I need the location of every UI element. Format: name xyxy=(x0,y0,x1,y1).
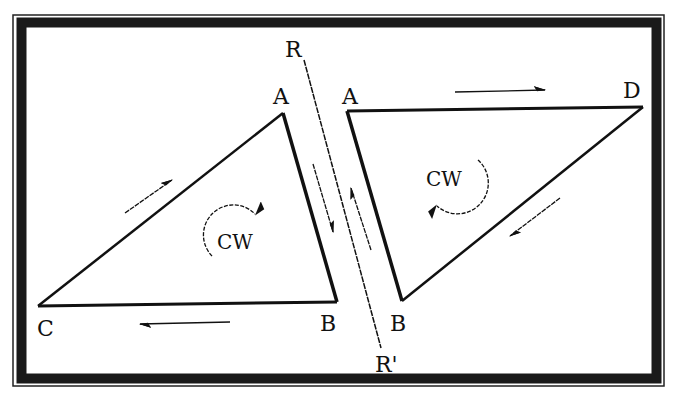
rotation-label-left: CW xyxy=(217,230,253,254)
label-c: C xyxy=(37,316,54,341)
arrow-cb-left-icon xyxy=(140,322,230,324)
label-r: R xyxy=(285,37,303,62)
label-right-a: A xyxy=(341,84,359,109)
arrow-fault-right-up-icon xyxy=(351,188,371,250)
right-triangle xyxy=(347,107,643,301)
arrow-ad-right-icon xyxy=(455,90,545,92)
label-d: D xyxy=(623,78,641,103)
arrow-db-down-icon xyxy=(510,198,560,236)
label-r-prime: R' xyxy=(375,352,398,377)
arrow-ca-up-icon xyxy=(125,180,172,213)
rotation-label-right: CW xyxy=(426,167,462,191)
label-left-a: A xyxy=(272,84,290,109)
left-triangle xyxy=(38,113,337,306)
arrow-fault-left-down-icon xyxy=(313,164,333,232)
label-left-b: B xyxy=(320,311,336,336)
diagram-canvas: R R' A B C CW A D B CW xyxy=(0,0,674,401)
frame xyxy=(13,15,664,386)
label-right-b: B xyxy=(390,311,406,336)
